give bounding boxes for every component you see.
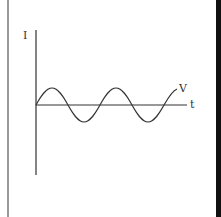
y-axis-label: I bbox=[23, 30, 27, 41]
curve-label: V bbox=[179, 83, 187, 94]
x-axis-label: t bbox=[190, 99, 194, 110]
sine-wave-diagram bbox=[0, 0, 221, 217]
